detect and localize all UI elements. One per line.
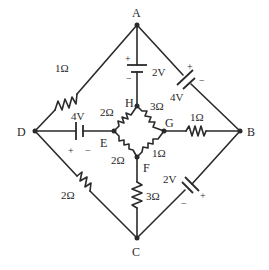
battery-AB: + − 4V xyxy=(137,25,240,131)
node-label-A: A xyxy=(132,6,141,20)
battery-AH: + − 2V xyxy=(125,25,166,106)
node-E xyxy=(112,129,117,134)
label-r-DA: 1Ω xyxy=(55,62,69,74)
node-D xyxy=(33,129,38,134)
node-A xyxy=(135,23,140,28)
node-label-G: G xyxy=(165,116,174,130)
resistor-DA: 1Ω xyxy=(35,25,137,131)
node-label-C: C xyxy=(132,245,140,259)
minus-sign: − xyxy=(126,73,132,84)
label-r-DC: 2Ω xyxy=(61,189,75,201)
node-label-F: F xyxy=(143,161,150,175)
label-r-EH: 2Ω xyxy=(100,106,114,118)
minus-sign: − xyxy=(181,198,187,209)
label-bat-AH: 2V xyxy=(152,66,166,78)
node-label-D: D xyxy=(17,125,26,139)
node-C xyxy=(135,236,140,241)
circuit-diagram: 1Ω + − 2V + − 4V + − 4V 2Ω 3Ω xyxy=(0,0,269,270)
plus-sign: + xyxy=(125,53,131,64)
plus-sign: + xyxy=(200,190,206,201)
node-H xyxy=(135,104,140,109)
resistor-GB: 1Ω xyxy=(164,111,240,136)
minus-sign: − xyxy=(199,75,205,86)
label-r-HG: 3Ω xyxy=(150,100,164,112)
label-r-EF: 2Ω xyxy=(111,154,125,166)
node-B xyxy=(238,129,243,134)
minus-sign: − xyxy=(85,145,91,156)
plus-sign: + xyxy=(68,145,74,156)
node-label-E: E xyxy=(100,136,107,150)
resistor-FG: 1Ω xyxy=(137,131,166,159)
label-r-FC: 3Ω xyxy=(146,190,160,202)
plus-sign: + xyxy=(187,61,193,72)
label-bat-CB: 2V xyxy=(163,173,177,185)
node-label-B: B xyxy=(247,125,255,139)
resistor-HG: 3Ω xyxy=(137,100,164,131)
label-bat-AB: 4V xyxy=(170,91,184,103)
label-bat-DE: 4V xyxy=(71,110,85,122)
label-r-FG: 1Ω xyxy=(152,147,166,159)
resistor-EF: 2Ω xyxy=(111,131,137,166)
node-label-H: H xyxy=(125,96,134,110)
node-F xyxy=(135,155,140,160)
label-r-GB: 1Ω xyxy=(190,111,204,123)
